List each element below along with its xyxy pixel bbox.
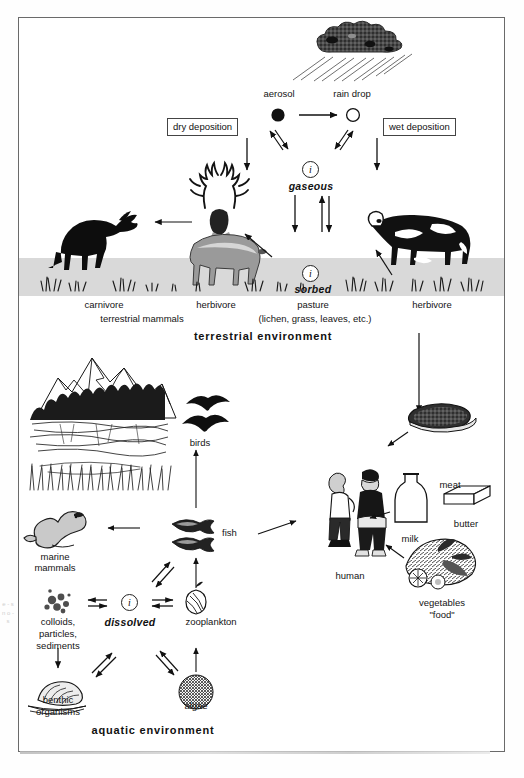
box-wet-deposition: wet deposition xyxy=(383,118,456,136)
label-benthic-2: organisms xyxy=(36,706,80,717)
arrows-dissolved-zooplankton xyxy=(152,600,173,606)
diagram-page: e - s n o - s xyxy=(0,0,524,778)
aerosol-dot xyxy=(271,108,284,121)
label-aerosol: aerosol xyxy=(263,88,294,99)
title-aquatic-environment: aquatic environment xyxy=(92,724,215,736)
label-vegetables-1: vegetables xyxy=(419,597,465,608)
label-marine-mammals-2: mammals xyxy=(34,562,75,573)
label-fish: fish xyxy=(222,527,237,538)
label-benthic-1: benthic xyxy=(43,694,74,705)
arrow-fish-to-human xyxy=(258,521,296,534)
arrows-colloids-dissolved xyxy=(88,600,107,606)
label-particles: particles, xyxy=(39,628,77,639)
arrows-aerosol-gaseous xyxy=(270,130,288,150)
rain-drop-circle xyxy=(347,109,360,122)
arrow-meat-to-human xyxy=(388,432,408,446)
label-gaseous: gaseous xyxy=(289,180,334,192)
label-herbivore-cow: herbivore xyxy=(412,299,452,310)
arrows-raindrop-gaseous xyxy=(335,130,353,150)
label-algae: algae xyxy=(184,700,207,711)
box-dry-deposition: dry deposition xyxy=(167,118,238,136)
zooplankton-figure xyxy=(186,582,206,614)
meat-figure xyxy=(408,404,476,432)
birds-figure xyxy=(182,395,230,432)
milk-bottle-figure xyxy=(395,474,427,522)
label-milk: milk xyxy=(402,533,419,544)
label-butter: butter xyxy=(454,518,478,529)
label-pasture: pasture xyxy=(297,299,329,310)
sorbed-i-symbol: i xyxy=(302,265,319,282)
arrows-dissolved-algae xyxy=(156,651,178,675)
gaseous-i-symbol: i xyxy=(302,161,319,178)
label-carnivore: carnivore xyxy=(84,299,123,310)
colloids-figure xyxy=(44,589,70,613)
page-bottom-smudge xyxy=(20,751,490,754)
deer-figure xyxy=(190,163,267,285)
label-dissolved: dissolved xyxy=(104,616,155,628)
label-zooplankton: zooplankton xyxy=(185,616,236,627)
label-birds: birds xyxy=(190,437,211,448)
label-terrestrial-mammals: terrestrial mammals xyxy=(100,313,183,324)
grass-tufts xyxy=(41,277,483,291)
label-herbivore-deer: herbivore xyxy=(196,299,236,310)
wolf-figure xyxy=(48,211,138,270)
cow-figure xyxy=(368,212,470,266)
label-marine-mammals-1: marine xyxy=(40,551,69,562)
dissolved-i-symbol: i xyxy=(121,594,138,611)
mountain-lake-scene xyxy=(30,358,176,490)
label-rain-drop: rain drop xyxy=(333,88,371,99)
label-sediments: sediments xyxy=(36,640,79,651)
arrows-gaseous-sorbed-exchange xyxy=(322,196,329,232)
seal-figure xyxy=(24,512,86,548)
cloud-icon xyxy=(317,21,402,52)
diagram-artwork xyxy=(0,0,524,778)
label-human: human xyxy=(335,570,364,581)
label-vegetables-2: "food" xyxy=(429,609,454,620)
arrow-pasture-to-cow xyxy=(376,250,392,275)
vegetables-figure xyxy=(406,539,476,589)
title-terrestrial-environment: terrestrial environment xyxy=(194,330,332,342)
label-sorbed: sorbed xyxy=(295,283,332,295)
label-meat: meat xyxy=(439,479,460,490)
arrow-vegetables-to-human xyxy=(386,545,404,558)
rain-streaks xyxy=(293,54,412,81)
arrows-dissolved-fish-exchange xyxy=(152,562,174,587)
arrows-benthic-dissolved xyxy=(92,653,116,677)
fish-figure xyxy=(172,520,214,552)
label-pasture-detail: (lichen, grass, leaves, etc.) xyxy=(259,313,372,324)
label-colloids: colloids, xyxy=(41,616,75,627)
human-figures xyxy=(328,469,386,556)
